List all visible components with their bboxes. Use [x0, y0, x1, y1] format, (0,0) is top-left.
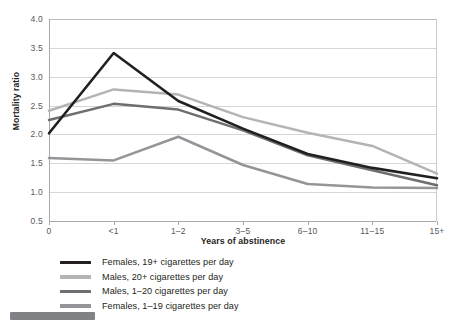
- x-tick-label: 3–5: [236, 226, 251, 236]
- legend-item[interactable]: Females, 1–19 cigarettes per day: [60, 299, 390, 314]
- x-tick: [308, 221, 309, 225]
- gridline: [50, 106, 436, 107]
- x-tick: [372, 221, 373, 225]
- legend-item[interactable]: Males, 1–20 cigarettes per day: [60, 284, 390, 299]
- legend-swatch-icon: [60, 275, 91, 279]
- gridline: [50, 192, 436, 193]
- legend-item-label: Females, 1–19 cigarettes per day: [102, 301, 239, 311]
- x-tick-label: 11–15: [360, 226, 384, 236]
- gridline: [50, 163, 436, 164]
- y-tick-label: 1.5: [31, 158, 43, 168]
- gridline: [50, 77, 436, 78]
- x-tick-label: 0: [47, 226, 52, 236]
- y-tick-label: 2.5: [31, 101, 43, 111]
- chart-figure: 0.51.01.52.02.53.03.54.0 Mortality ratio…: [0, 0, 454, 324]
- legend-item-label: Females, 19+ cigarettes per day: [102, 257, 234, 267]
- legend-item[interactable]: Males, 20+ cigarettes per day: [60, 270, 390, 285]
- x-tick: [437, 221, 438, 225]
- x-tick: [49, 221, 50, 225]
- x-tick-label: <1: [109, 226, 119, 236]
- x-tick-label: 15+: [429, 226, 444, 236]
- y-tick-label: 3.0: [31, 72, 43, 82]
- y-axis: 0.51.01.52.02.53.03.54.0: [0, 0, 49, 240]
- legend-swatch-icon: [60, 304, 91, 308]
- gridline: [50, 19, 436, 20]
- legend-item-label: Males, 1–20 cigarettes per day: [102, 286, 228, 296]
- x-tick-label: 1–2: [171, 226, 186, 236]
- plot-area: [49, 19, 437, 221]
- x-axis-title: Years of abstinence: [49, 236, 437, 246]
- legend-swatch-icon: [60, 261, 91, 265]
- x-tick-label: 6–10: [298, 226, 318, 236]
- gridline: [50, 48, 436, 49]
- y-tick-label: 1.0: [31, 187, 43, 197]
- y-tick-label: 3.5: [31, 43, 43, 53]
- legend-item-label: Males, 20+ cigarettes per day: [102, 272, 223, 282]
- y-tick-label: 4.0: [31, 14, 43, 24]
- x-tick: [114, 221, 115, 225]
- x-tick: [243, 221, 244, 225]
- x-tick: [178, 221, 179, 225]
- y-tick-label: 0.5: [31, 216, 43, 226]
- y-tick-label: 2.0: [31, 129, 43, 139]
- y-axis-title: Mortality ratio: [11, 51, 21, 151]
- footer-bar: [10, 312, 95, 320]
- legend-swatch-icon: [60, 290, 91, 294]
- legend-item[interactable]: Females, 19+ cigarettes per day: [60, 255, 390, 270]
- gridline: [50, 134, 436, 135]
- chart-legend: Females, 19+ cigarettes per dayMales, 20…: [60, 255, 390, 313]
